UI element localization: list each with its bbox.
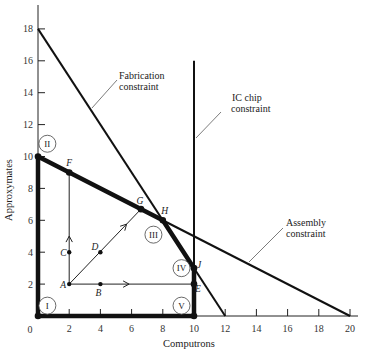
y-tick-label: 2 — [28, 279, 33, 290]
x-tick-label: 8 — [160, 323, 165, 334]
x-axis-label: Computrons — [163, 338, 215, 349]
assembly-leader — [249, 228, 283, 262]
ic-chip-label-1: IC chip — [232, 92, 262, 103]
point-marker — [67, 250, 71, 254]
x-tick-label: 18 — [314, 323, 324, 334]
assembly-label-2: constraint — [286, 228, 326, 239]
point-label: H — [160, 206, 169, 216]
x-tick-label: 16 — [283, 323, 293, 334]
y-tick-label: 12 — [23, 119, 33, 130]
path-line — [69, 209, 141, 284]
origin-label: 0 — [28, 324, 33, 335]
x-tick-label: 12 — [220, 323, 230, 334]
x-tick-label: 10 — [189, 323, 199, 334]
x-ticks: 2468101214161820 — [67, 309, 355, 334]
region-label: II — [44, 139, 50, 149]
point-label: D — [90, 242, 98, 252]
point-label: J — [197, 260, 202, 270]
y-tick-label: 14 — [23, 87, 33, 98]
assembly-label-1: Assembly — [286, 217, 326, 228]
point-label: G — [137, 196, 144, 206]
y-tick-label: 8 — [28, 183, 33, 194]
axes: 24681012141618 2468101214161820 0 — [23, 5, 358, 335]
y-tick-label: 10 — [23, 151, 33, 162]
point-label: F — [65, 158, 72, 168]
point-marker — [98, 250, 102, 254]
vertex-marker — [35, 313, 42, 320]
point-label: B — [95, 288, 101, 298]
data-points: ABCDEFGHJ — [35, 153, 202, 319]
y-tick-label: 4 — [28, 247, 33, 258]
fabrication-leader — [92, 80, 117, 108]
x-tick-label: 4 — [98, 323, 103, 334]
region-label: V — [178, 301, 185, 311]
x-tick-label: 14 — [251, 323, 261, 334]
chart-canvas: 24681012141618 2468101214161820 0 Comput… — [0, 0, 368, 351]
point-marker — [66, 169, 73, 176]
x-tick-label: 20 — [345, 323, 355, 334]
point-label: C — [60, 248, 67, 258]
fabrication-label-2: constraint — [119, 81, 159, 92]
region-label: IV — [177, 263, 187, 273]
y-tick-label: 6 — [28, 215, 33, 226]
point-marker — [160, 217, 167, 224]
y-axis-label: Approxymates — [3, 159, 14, 221]
x-tick-label: 2 — [67, 323, 72, 334]
region-label: I — [46, 301, 49, 311]
region-label: III — [149, 230, 158, 240]
fabrication-label-1: Fabrication — [119, 70, 165, 81]
vertex-marker — [35, 153, 42, 160]
point-label: A — [59, 280, 66, 290]
feasible-region-boundary — [38, 157, 194, 317]
y-tick-label: 16 — [23, 55, 33, 66]
point-marker — [98, 282, 102, 286]
point-marker — [67, 282, 71, 286]
feasible-polygon — [38, 157, 194, 317]
ic-chip-label-2: constraint — [231, 103, 271, 114]
x-tick-label: 6 — [129, 323, 134, 334]
y-tick-label: 18 — [23, 23, 33, 34]
point-marker — [138, 206, 145, 213]
point-label: E — [194, 284, 201, 294]
ic-chip-leader — [196, 112, 221, 138]
vertex-marker — [191, 313, 198, 320]
